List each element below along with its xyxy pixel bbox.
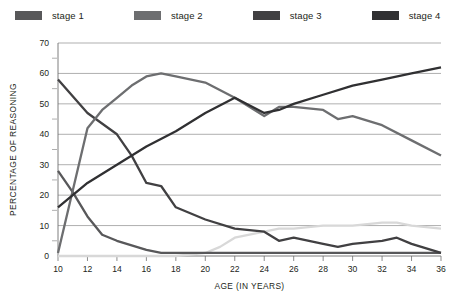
legend-label-stage-4: stage 4 [409, 10, 441, 21]
x-tick-label-28: 28 [318, 264, 328, 274]
y-tick-label-50: 50 [39, 99, 49, 109]
x-tick-label-26: 26 [289, 264, 299, 274]
y-tick-label-10: 10 [39, 221, 49, 231]
line-chart-figure: stage 1 stage 2 stage 3 stage 4 stage 5 … [0, 0, 449, 298]
y-axis-ticks [52, 58, 57, 241]
x-tick-label-20: 20 [201, 264, 211, 274]
y-tick-label-70: 70 [39, 38, 49, 48]
y-tick-label-20: 20 [39, 190, 49, 200]
legend-label-stage-1: stage 1 [52, 10, 84, 21]
series-line-stage-4 [58, 67, 441, 207]
legend-swatch-stage-3 [253, 11, 280, 20]
legend-item-stage-4: stage 4 [372, 0, 441, 30]
x-tick-label-22: 22 [230, 264, 240, 274]
chart-legend: stage 1 stage 2 stage 3 stage 4 stage 5 [0, 0, 449, 30]
legend-label-stage-3: stage 3 [290, 10, 322, 21]
legend-swatch-stage-2 [134, 11, 161, 20]
legend-item-stage-1: stage 1 [15, 0, 84, 30]
x-tick-label-32: 32 [377, 264, 387, 274]
legend-swatch-stage-4 [372, 11, 399, 20]
x-tick-label-16: 16 [142, 264, 152, 274]
y-axis-title: PERCENTAGE OF REASONING [8, 83, 18, 216]
chart-plot-area: 010203040506070 101214161820222426283032… [0, 0, 449, 298]
legend-item-stage-3: stage 3 [253, 0, 322, 30]
x-tick-label-36: 36 [436, 264, 446, 274]
y-axis-tick-labels: 010203040506070 [39, 38, 49, 261]
x-tick-label-12: 12 [83, 264, 93, 274]
x-tick-label-30: 30 [348, 264, 358, 274]
legend-label-stage-2: stage 2 [171, 10, 203, 21]
data-series-layer [58, 67, 441, 256]
x-axis-tick-labels: 1012141618202224262830323436 [53, 264, 446, 274]
x-axis-title: AGE (IN YEARS) [214, 281, 284, 291]
x-tick-label-10: 10 [53, 264, 63, 274]
y-tick-label-60: 60 [39, 68, 49, 78]
y-tick-label-30: 30 [39, 160, 49, 170]
y-tick-label-0: 0 [44, 251, 49, 261]
x-tick-label-24: 24 [259, 264, 269, 274]
series-line-stage-2 [58, 73, 441, 253]
y-tick-label-40: 40 [39, 129, 49, 139]
legend-swatch-stage-1 [15, 11, 42, 20]
x-tick-label-18: 18 [171, 264, 181, 274]
x-tick-label-14: 14 [112, 264, 122, 274]
legend-item-stage-2: stage 2 [134, 0, 203, 30]
grid-layer [58, 43, 441, 256]
x-tick-label-34: 34 [407, 264, 417, 274]
